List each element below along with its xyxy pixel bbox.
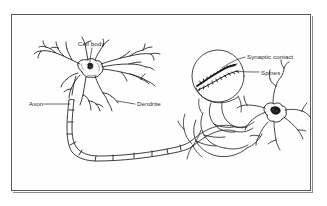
axon-terminal-branches bbox=[178, 114, 202, 159]
dendrites-left-lower bbox=[61, 73, 118, 111]
label-axon: Axon bbox=[29, 101, 43, 107]
label-spines: Spines bbox=[261, 70, 280, 76]
leader-synaptic-contact bbox=[222, 57, 245, 68]
leader-dendrite bbox=[117, 101, 135, 104]
leader-cell-body bbox=[90, 48, 92, 62]
label-dendrite: Dendrite bbox=[137, 101, 161, 107]
myelinated-axon bbox=[67, 76, 193, 161]
postsynaptic-dendrite-loops bbox=[191, 103, 262, 157]
figure-root: Cell body Axon Dendrite Synaptic contact… bbox=[0, 0, 327, 206]
neuron-diagram-artwork bbox=[0, 0, 327, 206]
label-cell-body: Cell body bbox=[78, 41, 104, 47]
dendrites-left-upper bbox=[34, 41, 80, 64]
soma-right bbox=[264, 103, 286, 122]
dendrites-left-right bbox=[101, 44, 160, 86]
leader-spines bbox=[237, 71, 259, 72]
label-synaptic-contact: Synaptic contact bbox=[247, 54, 293, 60]
magnifier-circle bbox=[192, 50, 244, 113]
